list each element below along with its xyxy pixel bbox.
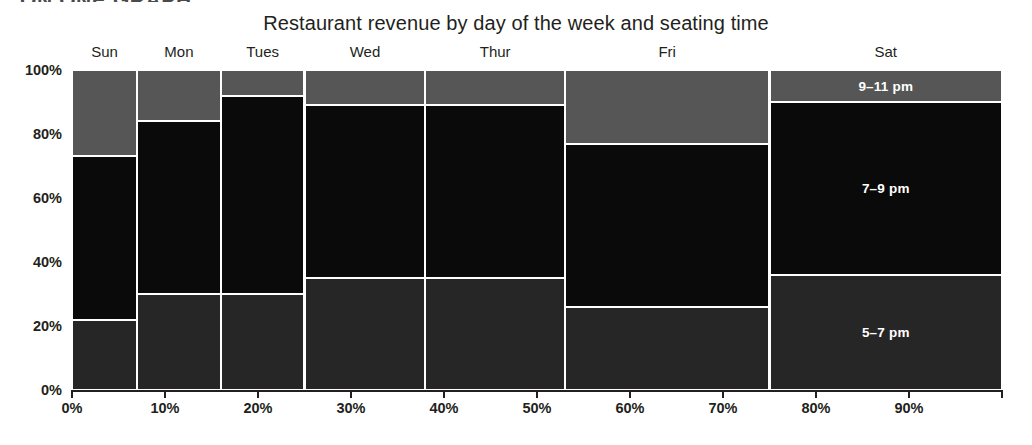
y-tick-label: 60%	[33, 190, 62, 206]
x-tick-label: 10%	[150, 400, 179, 416]
x-tick-label: 30%	[336, 400, 365, 416]
mosaic-cell[interactable]	[425, 105, 565, 278]
y-tick-label: 20%	[33, 318, 62, 334]
x-tick-label: 80%	[801, 400, 830, 416]
y-tick-label: 40%	[33, 254, 62, 270]
x-tick-mark	[164, 390, 166, 398]
mosaic-column-mon[interactable]	[137, 70, 221, 390]
x-tick-mark	[257, 390, 259, 398]
seating-time-label: 5–7 pm	[862, 325, 910, 340]
mosaic-cell[interactable]	[137, 121, 221, 294]
column-header-sat: Sat	[770, 43, 1003, 60]
mosaic-cell[interactable]: 5–7 pm	[770, 275, 1003, 390]
mosaic-column-tues[interactable]	[221, 70, 305, 390]
chart-title: Restaurant revenue by day of the week an…	[0, 12, 1032, 35]
x-tick-label: 0%	[62, 400, 83, 416]
mosaic-cell[interactable]	[137, 294, 221, 390]
y-axis: 0%20%40%60%80%100%	[0, 70, 72, 390]
mosaic-cell[interactable]	[72, 320, 137, 390]
x-tick-mark	[536, 390, 538, 398]
mosaic-cell[interactable]	[425, 70, 565, 105]
x-tick-mark	[350, 390, 352, 398]
column-header-sun: Sun	[72, 43, 137, 60]
mosaic-cell[interactable]	[305, 70, 426, 105]
column-header-thur: Thur	[425, 43, 565, 60]
mosaic-column-sat[interactable]: 5–7 pm7–9 pm9–11 pm	[770, 70, 1003, 390]
section-kicker: ON ONE GRAPH	[20, 0, 192, 2]
seating-time-label: 9–11 pm	[858, 79, 913, 94]
mosaic-cell[interactable]	[72, 70, 137, 156]
x-tick-mark	[815, 390, 817, 398]
x-tick-mark	[71, 390, 73, 398]
mosaic-cell[interactable]	[221, 70, 305, 96]
x-axis: 0%10%20%30%40%50%60%70%80%90%	[72, 390, 1002, 430]
mosaic-cell[interactable]	[565, 144, 770, 307]
mosaic-cell[interactable]: 9–11 pm	[770, 70, 1003, 102]
mosaic-cell[interactable]	[221, 96, 305, 294]
mosaic-cell[interactable]	[305, 105, 426, 278]
mosaic-cell[interactable]	[565, 70, 770, 144]
y-tick-label: 100%	[25, 62, 62, 78]
mosaic-cell[interactable]	[72, 156, 137, 319]
column-header-tues: Tues	[221, 43, 305, 60]
mosaic-cell[interactable]: 7–9 pm	[770, 102, 1003, 275]
y-tick-label: 80%	[33, 126, 62, 142]
mosaic-column-thur[interactable]	[425, 70, 565, 390]
column-header-mon: Mon	[137, 43, 221, 60]
mosaic-column-wed[interactable]	[305, 70, 426, 390]
x-tick-label: 40%	[429, 400, 458, 416]
mosaic-cell[interactable]	[305, 278, 426, 390]
x-tick-label: 20%	[243, 400, 272, 416]
mosaic-cell[interactable]	[221, 294, 305, 390]
mosaic-cell[interactable]	[425, 278, 565, 390]
x-tick-label: 90%	[894, 400, 923, 416]
x-tick-label: 60%	[615, 400, 644, 416]
x-tick-mark	[722, 390, 724, 398]
y-tick-label: 0%	[41, 382, 62, 398]
x-tick-label: 70%	[708, 400, 737, 416]
mosaic-column-fri[interactable]	[565, 70, 770, 390]
x-tick-mark	[443, 390, 445, 398]
mosaic-plot-area: SunMonTuesWedThurFri5–7 pm7–9 pm9–11 pmS…	[72, 70, 1002, 390]
column-header-fri: Fri	[565, 43, 770, 60]
x-tick-mark	[908, 390, 910, 398]
mosaic-column-sun[interactable]	[72, 70, 137, 390]
x-tick-mark	[1001, 390, 1003, 398]
column-header-wed: Wed	[305, 43, 426, 60]
x-tick-mark	[629, 390, 631, 398]
mosaic-cell[interactable]	[565, 307, 770, 390]
x-tick-label: 50%	[522, 400, 551, 416]
mosaic-cell[interactable]	[137, 70, 221, 121]
seating-time-label: 7–9 pm	[862, 181, 910, 196]
